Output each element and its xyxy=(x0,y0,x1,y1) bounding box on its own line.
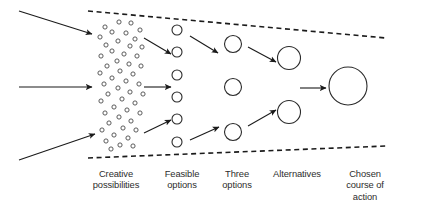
flow-feasible-to-three-lower xyxy=(190,127,219,140)
stage-labels-row: Creative possibilities Feasible options … xyxy=(0,168,428,218)
idea-dot xyxy=(103,111,107,115)
stage-circle-feasible-options xyxy=(172,25,182,35)
stage-circle-feasible-options xyxy=(172,47,182,57)
idea-dot xyxy=(141,92,145,96)
stage-circle-feasible-options xyxy=(172,92,182,102)
idea-dot xyxy=(137,82,141,86)
idea-dot xyxy=(124,31,128,35)
stage-label-creative-possibilities: Creative possibilities xyxy=(79,168,153,191)
stage-circle-chosen-course-of-action xyxy=(329,67,367,105)
funnel-boundaries xyxy=(88,11,386,158)
idea-dot xyxy=(105,64,109,68)
idea-dot xyxy=(125,108,129,112)
input-arrow-top xyxy=(19,11,92,34)
idea-dot xyxy=(106,92,110,96)
stage-circle-three-options xyxy=(225,124,242,141)
flow-dots-to-feasible-lower xyxy=(144,120,171,133)
idea-dot xyxy=(98,71,102,75)
stage-label-line: options xyxy=(210,179,264,190)
idea-dot xyxy=(133,101,137,105)
stage-label-line: possibilities xyxy=(79,179,153,190)
stage-circle-feasible-options xyxy=(172,70,182,80)
idea-dot xyxy=(110,76,114,80)
flow-three-to-alternatives-upper xyxy=(248,47,276,62)
idea-dot xyxy=(115,59,119,63)
idea-dot xyxy=(118,69,122,73)
stage-label-alternatives: Alternatives xyxy=(261,168,333,179)
stage-label-three-options: Three options xyxy=(210,168,264,191)
creative-possibilities-dot-cloud xyxy=(98,20,145,151)
idea-dot xyxy=(102,82,106,86)
stage-label-line: Three xyxy=(210,168,264,179)
idea-dot xyxy=(107,121,111,125)
idea-dot xyxy=(118,143,122,147)
stage-label-line: Feasible xyxy=(152,168,212,179)
idea-dot xyxy=(131,144,135,148)
stage-label-line: options xyxy=(152,179,212,190)
stage-circle-feasible-options xyxy=(172,114,182,124)
stage-label-line: action xyxy=(333,191,397,202)
idea-dot xyxy=(129,119,133,123)
idea-dot xyxy=(135,54,139,58)
idea-dot xyxy=(139,64,143,68)
idea-dot xyxy=(138,111,142,115)
stage-label-line: Alternatives xyxy=(261,168,333,179)
idea-dot xyxy=(110,49,114,53)
stage-circle-alternatives xyxy=(278,101,301,124)
idea-dot xyxy=(104,43,108,47)
decision-funnel-diagram: Creative possibilities Feasible options … xyxy=(0,0,428,218)
idea-dot xyxy=(127,62,131,66)
stage-label-line: Chosen xyxy=(333,168,397,179)
idea-dot xyxy=(109,147,113,151)
idea-dot xyxy=(133,37,137,41)
idea-dot xyxy=(126,136,130,140)
idea-dot xyxy=(104,139,108,143)
flow-feasible-to-three-upper xyxy=(190,36,218,53)
idea-dot xyxy=(120,97,124,101)
idea-dot xyxy=(112,105,116,109)
idea-dot xyxy=(117,20,121,24)
idea-dot xyxy=(138,28,142,32)
idea-dot xyxy=(129,21,133,25)
idea-dot xyxy=(128,90,132,94)
flow-dots-to-feasible-upper xyxy=(144,38,171,54)
idea-dot xyxy=(112,133,116,137)
stage-label-line: course of xyxy=(333,179,397,190)
stage-label-feasible-options: Feasible options xyxy=(152,168,212,191)
stage-circle-feasible-options xyxy=(172,137,182,147)
idea-dot xyxy=(100,128,104,132)
stage-label-chosen-course-of-action: Chosen course of action xyxy=(333,168,397,202)
idea-dot xyxy=(122,52,126,56)
flow-three-to-alternatives-lower xyxy=(248,110,276,126)
stage-label-line: Creative xyxy=(79,168,153,179)
idea-dot xyxy=(140,45,144,49)
idea-dot xyxy=(116,86,120,90)
stage-circle-three-options xyxy=(225,79,242,96)
stage-circle-three-options xyxy=(225,36,242,53)
idea-dot xyxy=(110,30,114,34)
idea-dot xyxy=(124,79,128,83)
idea-dot xyxy=(131,72,135,76)
idea-dot xyxy=(121,126,125,130)
idea-dot xyxy=(128,44,132,48)
idea-dot xyxy=(98,35,102,39)
idea-dot xyxy=(134,128,138,132)
input-arrows-group xyxy=(19,11,95,160)
stage-circle-alternatives xyxy=(278,47,301,70)
input-arrow-bottom xyxy=(19,134,95,160)
idea-dot xyxy=(99,99,103,103)
idea-dot xyxy=(117,115,121,119)
idea-dot xyxy=(99,54,103,58)
idea-dot xyxy=(116,39,120,43)
idea-dot xyxy=(103,25,107,29)
